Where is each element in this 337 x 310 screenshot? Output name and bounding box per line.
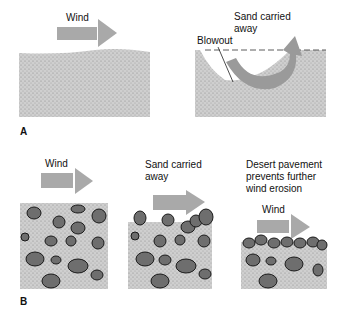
panel-a-right <box>195 36 326 117</box>
sand-label-b2: away <box>145 171 168 183</box>
pavement-label-2: prevents further <box>246 171 316 183</box>
panel-b-stage2 <box>128 190 213 289</box>
blowout-label: Blowout <box>197 35 233 47</box>
wind-arrow-head-icon <box>291 214 310 239</box>
panel-a-left <box>19 19 150 117</box>
sand-label-b1: Sand carried <box>145 159 202 171</box>
pavement-label-1: Desert pavement <box>246 159 322 171</box>
panel-b-stage3 <box>241 214 327 289</box>
panel-letter-a: A <box>20 126 27 137</box>
wind-label-a: Wind <box>66 12 89 24</box>
wind-arrow-head-icon <box>98 19 117 47</box>
wind-arrow-head-icon <box>75 168 93 194</box>
panel-b-stage1 <box>20 168 108 289</box>
wind-arrow-shaft <box>57 27 97 40</box>
sand-surface <box>19 49 150 117</box>
wind-label-b1: Wind <box>45 158 68 170</box>
sand-label-a1: Sand carried <box>234 11 291 23</box>
wind-label-b3: Wind <box>262 204 285 216</box>
pavement-label-3: wind erosion <box>246 183 302 195</box>
panel-letter-b: B <box>20 296 27 307</box>
sand-label-a2: away <box>234 23 257 35</box>
wind-erosion-diagram <box>0 0 337 310</box>
